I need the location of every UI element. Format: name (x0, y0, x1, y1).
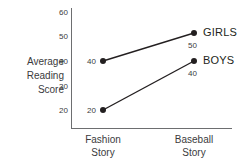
x-category-label-baseball-story: Baseball Story (154, 133, 234, 159)
data-point-girls-baseball (191, 30, 197, 36)
data-point-boys-fashion (100, 107, 106, 113)
reading-score-line-chart: Average Reading Score 60 50 40 30 20 40 … (0, 0, 250, 165)
x-category-fashion-line-1: Fashion (63, 133, 143, 146)
series-line-girls (103, 33, 194, 61)
series-label-girls: GIRLS (203, 26, 237, 38)
x-category-label-fashion-story: Fashion Story (63, 133, 143, 159)
x-category-baseball-line-2: Story (154, 146, 234, 159)
series-label-boys: BOYS (203, 54, 234, 66)
series-line-boys (103, 61, 194, 110)
data-label-boys-fashion: 20 (87, 106, 96, 115)
data-point-girls-fashion (100, 58, 106, 64)
data-label-girls-fashion: 40 (87, 57, 96, 66)
x-category-fashion-line-2: Story (63, 146, 143, 159)
data-point-boys-baseball (191, 58, 197, 64)
x-category-baseball-line-1: Baseball (154, 133, 234, 146)
data-label-girls-baseball: 50 (188, 41, 197, 50)
data-label-boys-baseball: 40 (188, 69, 197, 78)
